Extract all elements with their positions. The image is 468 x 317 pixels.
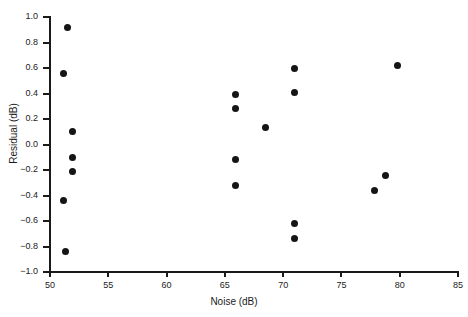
x-tick-label: 60 bbox=[152, 281, 182, 290]
x-tick-mark bbox=[166, 271, 168, 277]
data-point bbox=[60, 70, 67, 77]
y-tick-label: −0.4 bbox=[4, 191, 38, 200]
x-tick-label: 80 bbox=[385, 281, 415, 290]
data-point bbox=[62, 248, 69, 255]
y-tick-label: −0.2 bbox=[4, 165, 38, 174]
x-axis-title: Noise (dB) bbox=[0, 296, 468, 307]
x-axis-line bbox=[49, 271, 459, 273]
data-point bbox=[69, 168, 76, 175]
y-tick-mark bbox=[43, 246, 50, 248]
y-tick-label: 0.2 bbox=[4, 114, 38, 123]
y-tick-label: −1.0 bbox=[4, 267, 38, 276]
data-point bbox=[382, 172, 389, 179]
x-tick-label: 55 bbox=[93, 281, 123, 290]
data-point bbox=[232, 105, 239, 112]
y-tick-label: −0.8 bbox=[4, 242, 38, 251]
data-point bbox=[232, 91, 239, 98]
data-point bbox=[232, 156, 239, 163]
y-tick-label: 0.8 bbox=[4, 38, 38, 47]
x-tick-mark bbox=[457, 271, 459, 277]
y-tick-mark bbox=[43, 144, 50, 146]
y-tick-mark bbox=[43, 118, 50, 120]
data-point bbox=[371, 187, 378, 194]
x-tick-label: 65 bbox=[210, 281, 240, 290]
x-tick-mark bbox=[340, 271, 342, 277]
x-tick-label: 85 bbox=[443, 281, 468, 290]
y-tick-label: −0.6 bbox=[4, 216, 38, 225]
x-tick-mark bbox=[107, 271, 109, 277]
data-point bbox=[291, 235, 298, 242]
data-point bbox=[232, 182, 239, 189]
y-tick-label: 0.0 bbox=[4, 140, 38, 149]
y-tick-label: 0.6 bbox=[4, 63, 38, 72]
y-tick-mark bbox=[43, 195, 50, 197]
data-point bbox=[291, 65, 298, 72]
data-point bbox=[60, 197, 67, 204]
x-tick-label: 50 bbox=[35, 281, 65, 290]
x-tick-label: 70 bbox=[268, 281, 298, 290]
y-tick-mark bbox=[43, 42, 50, 44]
y-tick-mark bbox=[43, 93, 50, 95]
y-tick-mark bbox=[43, 67, 50, 69]
residual-scatter-plot: Noise (dB) Residual (dB) −1.0−0.8−0.6−0.… bbox=[0, 0, 468, 317]
data-point bbox=[69, 128, 76, 135]
x-tick-mark bbox=[224, 271, 226, 277]
data-point bbox=[394, 62, 401, 69]
y-tick-mark bbox=[43, 169, 50, 171]
data-point bbox=[64, 24, 71, 31]
x-tick-label: 75 bbox=[326, 281, 356, 290]
x-tick-mark bbox=[282, 271, 284, 277]
data-point bbox=[262, 124, 269, 131]
x-tick-mark bbox=[399, 271, 401, 277]
data-point bbox=[69, 154, 76, 161]
y-tick-label: 1.0 bbox=[4, 12, 38, 21]
plot-area bbox=[50, 17, 458, 272]
data-point bbox=[291, 89, 298, 96]
y-tick-label: 0.4 bbox=[4, 89, 38, 98]
data-point bbox=[291, 220, 298, 227]
y-tick-mark bbox=[43, 16, 50, 18]
y-tick-mark bbox=[43, 220, 50, 222]
x-tick-mark bbox=[49, 271, 51, 277]
